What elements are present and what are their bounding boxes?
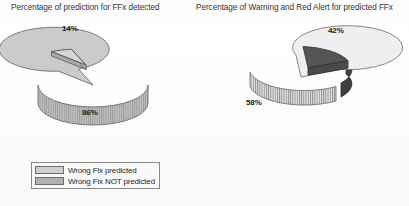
chart-panel-right: Percentage of Warning and Red Alert for … <box>200 0 409 206</box>
pie-chart-right <box>200 18 409 138</box>
pie-left-main-side <box>38 85 148 125</box>
pie-right-label-42: 42% <box>328 26 344 35</box>
pie-left-svg <box>0 18 200 138</box>
chart-title-left: Percentage of prediction for FFx detecte… <box>11 3 160 12</box>
chart-title-right: Percentage of Warning and Red Alert for … <box>196 3 393 12</box>
legend-swatch-wrong-fix-not-predicted <box>35 177 64 185</box>
legend-label-wrong-fix-predicted: Wrong Fix predicted <box>68 166 137 175</box>
legend-label-wrong-fix-not-predicted: Wrong Fix NOT predicted <box>68 177 155 186</box>
chart-panel-left: Percentage of prediction for FFx detecte… <box>0 0 200 206</box>
pie-left-label-14: 14% <box>62 24 78 33</box>
legend-item-wrong-fix-predicted: Wrong Fix predicted <box>35 165 156 175</box>
legend-left: Wrong Fix predicted Wrong Fix NOT predic… <box>31 162 160 189</box>
pie-right-svg <box>200 18 409 138</box>
legend-swatch-wrong-fix-predicted <box>35 166 64 174</box>
pie-left-label-86: 86% <box>82 108 98 117</box>
pie-right-slice-58-side <box>250 72 336 105</box>
pie-right-label-58: 58% <box>246 98 262 107</box>
legend-item-wrong-fix-not-predicted: Wrong Fix NOT predicted <box>35 176 156 186</box>
pie-chart-left <box>0 18 200 138</box>
